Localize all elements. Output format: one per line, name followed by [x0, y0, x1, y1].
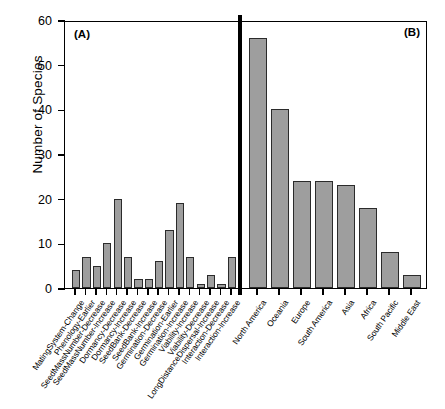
x-tick	[95, 289, 96, 295]
x-tick	[410, 289, 411, 295]
bar	[271, 109, 289, 288]
y-tick-label: 0	[22, 282, 52, 296]
x-tick	[106, 289, 107, 295]
x-tick	[74, 289, 75, 295]
x-tick	[85, 289, 86, 295]
x-tick	[366, 289, 367, 295]
x-tick	[178, 289, 179, 295]
x-tick	[220, 289, 221, 295]
bar	[337, 185, 355, 288]
x-tick	[116, 289, 117, 295]
x-tick	[147, 289, 148, 295]
bar	[249, 38, 267, 288]
x-tick	[189, 289, 190, 295]
bar	[293, 181, 311, 288]
plot-area	[64, 21, 427, 289]
bars-panel-b	[65, 22, 426, 288]
y-tick-label: 40	[22, 103, 52, 117]
bar	[315, 181, 333, 288]
x-tick-label: Africa	[358, 298, 378, 321]
x-tick	[322, 289, 323, 295]
x-tick-label: Asia	[339, 298, 356, 317]
panel-label-b: (B)	[404, 26, 420, 38]
bar	[359, 208, 377, 288]
y-tick-label: 20	[22, 193, 52, 207]
x-tick	[137, 289, 138, 295]
y-tick-label: 10	[22, 237, 52, 251]
x-tick	[344, 289, 345, 295]
bar	[403, 275, 421, 288]
panel-divider	[238, 15, 242, 295]
figure-bar-chart: Number of Species 0102030405060 (A) (B) …	[0, 0, 445, 409]
x-tick	[157, 289, 158, 295]
y-tick-label: 30	[22, 148, 52, 162]
x-tick	[168, 289, 169, 295]
x-tick	[209, 289, 210, 295]
x-tick	[126, 289, 127, 295]
y-tick-label: 50	[22, 59, 52, 73]
x-tick	[256, 289, 257, 295]
x-tick	[300, 289, 301, 295]
x-tick	[199, 289, 200, 295]
bar	[381, 252, 399, 288]
y-tick-label: 60	[22, 14, 52, 28]
x-tick	[278, 289, 279, 295]
x-tick	[230, 289, 231, 295]
panel-label-a: (A)	[74, 28, 90, 40]
x-tick	[388, 289, 389, 295]
